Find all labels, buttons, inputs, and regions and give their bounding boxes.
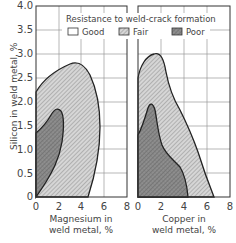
y-tick-labels: 0 0.5 1.0 1.5 2.0 2.5 3.0 3.5 4.0: [17, 0, 33, 202]
fair-swatch-icon: [119, 28, 129, 35]
svg-text:4: 4: [181, 201, 187, 212]
right-x-tick-labels: 0 2 4 6 8: [135, 201, 233, 212]
svg-text:2.0: 2.0: [17, 96, 33, 107]
svg-text:weld metal, %: weld metal, %: [152, 225, 217, 235]
left-x-axis-label: Magnesium in weld metal, %: [49, 214, 114, 235]
svg-text:4.0: 4.0: [17, 0, 33, 11]
svg-text:3.0: 3.0: [17, 48, 33, 59]
svg-text:2.5: 2.5: [17, 72, 33, 83]
svg-text:2: 2: [158, 201, 164, 212]
poor-swatch-icon: [172, 28, 182, 35]
svg-text:0: 0: [33, 201, 39, 212]
svg-text:0.5: 0.5: [17, 168, 33, 179]
svg-text:Magnesium in: Magnesium in: [50, 214, 113, 224]
svg-text:1.0: 1.0: [17, 144, 33, 155]
svg-text:8: 8: [124, 201, 130, 212]
svg-text:3.5: 3.5: [17, 24, 33, 35]
left-x-tick-labels: 0 2 4 6 8: [33, 201, 130, 212]
y-axis-label: Silicon in weld metal, %: [9, 42, 19, 150]
svg-text:2: 2: [56, 201, 62, 212]
svg-text:Fair: Fair: [133, 27, 149, 37]
svg-text:1.5: 1.5: [17, 120, 33, 131]
svg-text:Copper in: Copper in: [162, 214, 206, 224]
good-swatch-icon: [68, 28, 78, 35]
legend-title: Resistance to weld-crack formation: [66, 14, 216, 24]
svg-text:weld metal, %: weld metal, %: [49, 225, 114, 235]
svg-text:0: 0: [135, 201, 141, 212]
right-x-axis-label: Copper in weld metal, %: [152, 214, 217, 235]
weld-crack-chart: Resistance to weld-crack formation Good …: [0, 0, 236, 243]
svg-text:6: 6: [204, 201, 210, 212]
svg-text:4: 4: [78, 201, 84, 212]
svg-text:Poor: Poor: [186, 27, 205, 37]
svg-text:6: 6: [101, 201, 107, 212]
svg-text:8: 8: [227, 201, 233, 212]
svg-text:Good: Good: [82, 27, 104, 37]
